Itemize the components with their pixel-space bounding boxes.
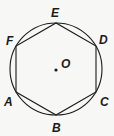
vertex-label-e: E bbox=[51, 6, 60, 20]
vertex-label-a: A bbox=[3, 95, 13, 109]
vertex-label-f: F bbox=[6, 34, 14, 48]
vertex-label-c: C bbox=[100, 95, 109, 109]
vertex-label-d: D bbox=[99, 33, 108, 47]
inscribed-hexagon-diagram: O ABCDEF bbox=[0, 0, 114, 136]
center-point-o bbox=[54, 68, 57, 71]
vertex-label-b: B bbox=[52, 121, 61, 135]
center-label: O bbox=[61, 57, 71, 71]
